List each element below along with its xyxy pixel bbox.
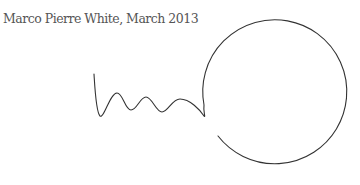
squiggle-line: [94, 20, 347, 164]
squiggle-circle-drawing: [0, 0, 360, 185]
